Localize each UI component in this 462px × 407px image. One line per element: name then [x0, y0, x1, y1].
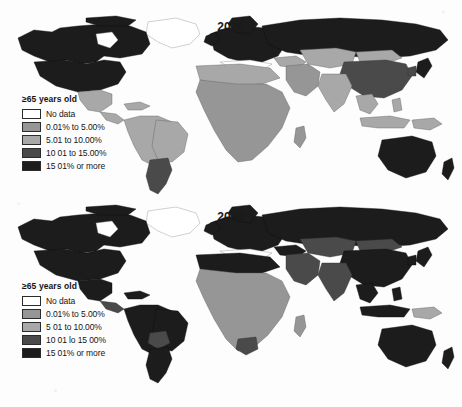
region-indonesia: [360, 116, 410, 128]
region-philippines: [392, 287, 402, 301]
legend-label-class-4: 15 01% or more: [46, 348, 105, 358]
region-china: [340, 249, 412, 287]
legend-swatch-class-1: [22, 309, 41, 319]
region-united-states: [34, 60, 126, 92]
legend-swatch-class-2: [22, 135, 41, 145]
legend-swatch-class-2: [22, 322, 41, 332]
region-new-guinea: [412, 118, 442, 130]
region-india: [318, 263, 352, 301]
region-brazil: [152, 120, 188, 162]
region-middle-east: [286, 253, 320, 285]
region-korea: [408, 255, 416, 265]
region-south-africa: [236, 337, 258, 355]
region-japan: [416, 247, 432, 267]
map-legend-2050: ≥65 years old No data 0.01% to 5.00% 5 0…: [22, 281, 134, 359]
legend-item-class-2: 5.01 to 10.00%: [22, 133, 134, 146]
legend-label-class-1: 0.01% to 5.00%: [46, 122, 105, 132]
region-southern-cone: [146, 347, 172, 383]
legend-swatch-no-data: [22, 296, 41, 306]
legend-item-class-1: 0.01% to 5.00%: [22, 120, 134, 133]
region-madagascar: [294, 315, 306, 337]
legend-label-class-3: 10 01 lo 15 00%: [46, 335, 106, 345]
region-indonesia: [360, 305, 410, 317]
region-sub-saharan-africa: [196, 80, 290, 162]
legend-swatch-class-3: [22, 335, 41, 345]
legend-item-class-4: 15 01% or more: [22, 346, 134, 359]
legend-label-no-data: No data: [46, 109, 75, 119]
region-southern-cone: [146, 158, 172, 194]
region-australia: [378, 136, 436, 178]
map-panel-2050: .d0{fill:#ffffff;stroke:#8a8a8a;stroke-w…: [0, 203, 462, 406]
region-india: [318, 74, 352, 112]
region-korea: [408, 66, 416, 76]
region-japan: [416, 58, 432, 78]
legend-title: ≥65 years old: [22, 281, 134, 291]
legend-swatch-class-1: [22, 122, 41, 132]
legend-label-class-1: 0.01% to 5.00%: [46, 309, 105, 319]
legend-item-class-3: 10 01 to 15.00%: [22, 146, 134, 159]
legend-label-class-2: 5.01 to 10.00%: [46, 135, 102, 145]
region-united-states: [34, 249, 126, 281]
region-new-zealand: [442, 347, 454, 369]
legend-swatch-class-4: [22, 348, 41, 358]
legend-label-no-data: No data: [46, 296, 75, 306]
legend-swatch-no-data: [22, 109, 41, 119]
panel-title-2020: 2020: [0, 20, 462, 34]
legend-item-no-data: No data: [22, 294, 134, 307]
legend-item-class-4: 15 01% or more: [22, 159, 134, 172]
region-china: [340, 60, 412, 98]
legend-title: ≥65 years old: [22, 94, 134, 104]
region-philippines: [392, 98, 402, 112]
legend-label-class-4: 15 01% or more: [46, 161, 105, 171]
legend-item-class-3: 10 01 lo 15 00%: [22, 333, 134, 346]
legend-label-class-2: 5 01 to 10.00%: [46, 322, 102, 332]
map-legend-2020: ≥65 years old No data 0.01% to 5.00% 5.0…: [22, 94, 134, 172]
map-panel-2020: .c0{fill:#ffffff;stroke:#8a8a8a;stroke-w…: [0, 0, 462, 203]
legend-item-class-1: 0.01% to 5.00%: [22, 307, 134, 320]
legend-swatch-class-4: [22, 161, 41, 171]
legend-item-class-2: 5 01 to 10.00%: [22, 320, 134, 333]
region-new-guinea: [412, 307, 442, 319]
legend-swatch-class-3: [22, 148, 41, 158]
figure-page: .c0{fill:#ffffff;stroke:#8a8a8a;stroke-w…: [0, 0, 462, 407]
region-new-zealand: [442, 158, 454, 180]
legend-item-no-data: No data: [22, 107, 134, 120]
panel-title-2050: 2050: [0, 210, 462, 224]
region-middle-east: [286, 64, 320, 96]
region-australia: [378, 325, 436, 367]
region-madagascar: [294, 126, 306, 148]
legend-label-class-3: 10 01 to 15.00%: [46, 148, 106, 158]
